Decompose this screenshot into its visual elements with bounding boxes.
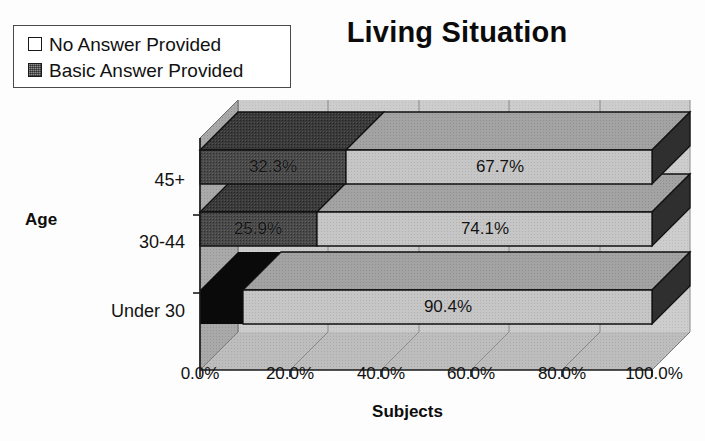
left-wall (200, 100, 238, 370)
bar-label-45plus-no-answer: 67.7% (476, 157, 524, 177)
legend-item-no-answer: No Answer Provided (28, 31, 290, 57)
legend-swatch-no-answer-icon (28, 37, 42, 51)
legend-swatch-basic-answer-icon (28, 63, 42, 77)
bar-label-under-30-no-answer: 90.4% (424, 297, 472, 317)
legend-label-basic-answer: Basic Answer Provided (49, 61, 243, 80)
x-tick-label-20: 20.0% (266, 364, 314, 384)
chart-legend: No Answer Provided Basic Answer Provided (13, 25, 291, 88)
x-tick-label-80: 80.0% (538, 364, 586, 384)
x-tick-label-60: 60.0% (447, 364, 495, 384)
y-axis-title: Age (25, 210, 57, 230)
y-tick-label-30-44: 30-44 (35, 232, 185, 253)
bar-label-30-44-no-answer: 74.1% (461, 219, 509, 239)
y-tick-label-under-30: Under 30 (35, 301, 185, 322)
legend-label-no-answer: No Answer Provided (49, 35, 221, 54)
bar-label-45plus-basic: 32.3% (249, 157, 297, 177)
x-axis-title-text: Subjects (372, 402, 443, 421)
x-tick-label-40: 40.0% (357, 364, 405, 384)
x-tick-label-100: 100.0% (625, 364, 683, 384)
legend-item-basic-answer: Basic Answer Provided (28, 57, 290, 83)
x-tick-label-0: 0.0% (181, 364, 220, 384)
x-axis-title: Subjects (0, 402, 705, 422)
chart-canvas: No Answer Provided Basic Answer Provided… (0, 0, 705, 441)
chart-title: Living Situation (292, 16, 622, 49)
y-tick-label-45-plus: 45+ (35, 170, 185, 191)
bar-label-30-44-basic: 25.9% (234, 219, 282, 239)
